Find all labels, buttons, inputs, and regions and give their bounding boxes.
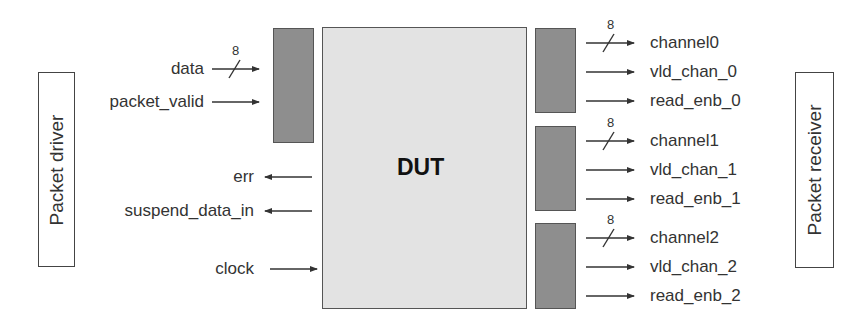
signal-channel1: channel1 bbox=[650, 131, 719, 151]
signal-read-enb-1: read_enb_1 bbox=[650, 189, 741, 209]
signal-vld-chan-0: vld_chan_0 bbox=[650, 62, 737, 82]
signal-channel2: channel2 bbox=[650, 228, 719, 248]
signal-err: err bbox=[233, 167, 254, 187]
signal-vld-chan-2: vld_chan_2 bbox=[650, 257, 737, 277]
data-bus-width: 8 bbox=[232, 44, 239, 58]
signal-read-enb-0: read_enb_0 bbox=[650, 91, 741, 111]
signal-channel0: channel0 bbox=[650, 33, 719, 53]
signal-data: data bbox=[171, 59, 204, 79]
signal-read-enb-2: read_enb_2 bbox=[650, 286, 741, 306]
signal-vld-chan-1: vld_chan_1 bbox=[650, 160, 737, 180]
channel2-bus-width: 8 bbox=[607, 213, 614, 227]
signal-clock: clock bbox=[215, 259, 254, 279]
signal-packet-valid: packet_valid bbox=[109, 92, 204, 112]
channel0-bus-width: 8 bbox=[607, 18, 614, 32]
channel1-bus-width: 8 bbox=[607, 116, 614, 130]
signal-suspend-data-in: suspend_data_in bbox=[124, 201, 254, 221]
